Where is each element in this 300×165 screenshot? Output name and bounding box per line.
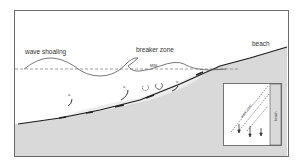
inset-beach-label: beach <box>274 111 278 121</box>
label-beach: beach <box>252 40 270 47</box>
svg-text:u: u <box>123 84 125 89</box>
label-wave-shoaling: wave shoaling <box>24 48 67 56</box>
inset-plan-view: beach wave crest <box>224 84 282 146</box>
label-breaker-zone: breaker zone <box>136 46 174 53</box>
nearshore-diagram: wave shoaling breaker zone beach MWL u u… <box>0 0 300 165</box>
svg-text:u: u <box>176 79 178 84</box>
label-mwl: MWL <box>150 64 158 68</box>
svg-text:u: u <box>68 92 70 97</box>
